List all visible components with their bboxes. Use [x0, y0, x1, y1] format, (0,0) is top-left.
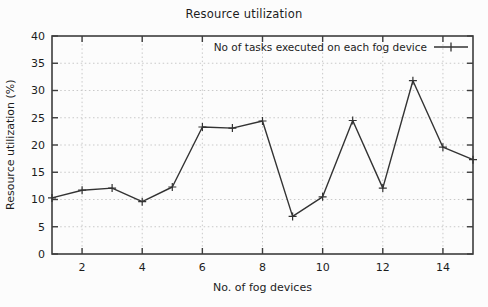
y-tick-label: 5 — [38, 221, 45, 234]
chart-container: Resource utilization Resource utilizatio… — [0, 0, 488, 307]
y-tick-label: 35 — [31, 57, 45, 70]
data-point-marker — [379, 184, 387, 192]
data-point-marker — [198, 123, 206, 131]
data-point-marker — [168, 183, 176, 191]
data-point-marker — [48, 194, 56, 202]
legend-line-marker-icon — [434, 42, 468, 52]
data-point-marker — [439, 143, 447, 151]
data-point-marker — [469, 156, 477, 164]
y-tick-label: 0 — [38, 248, 45, 261]
data-point-marker — [289, 212, 297, 220]
y-tick-label: 10 — [31, 193, 45, 206]
y-tick-label: 15 — [31, 166, 45, 179]
data-point-marker — [78, 186, 86, 194]
y-tick-label: 30 — [31, 84, 45, 97]
legend: No of tasks executed on each fog device — [214, 41, 468, 53]
y-tick-label: 20 — [31, 139, 45, 152]
x-tick-label: 14 — [436, 261, 450, 274]
data-point-marker — [409, 77, 417, 85]
x-axis-label: No. of fog devices — [52, 281, 473, 294]
data-point-marker — [138, 198, 146, 206]
x-tick-label: 8 — [259, 261, 266, 274]
y-tick-label: 25 — [31, 112, 45, 125]
data-point-marker — [108, 184, 116, 192]
y-tick-label: 40 — [31, 30, 45, 43]
x-tick-label: 2 — [79, 261, 86, 274]
legend-label: No of tasks executed on each fog device — [214, 41, 427, 53]
data-point-marker — [228, 124, 236, 132]
x-tick-label: 12 — [376, 261, 390, 274]
x-tick-label: 4 — [139, 261, 146, 274]
x-tick-label: 6 — [199, 261, 206, 274]
x-tick-label: 10 — [316, 261, 330, 274]
